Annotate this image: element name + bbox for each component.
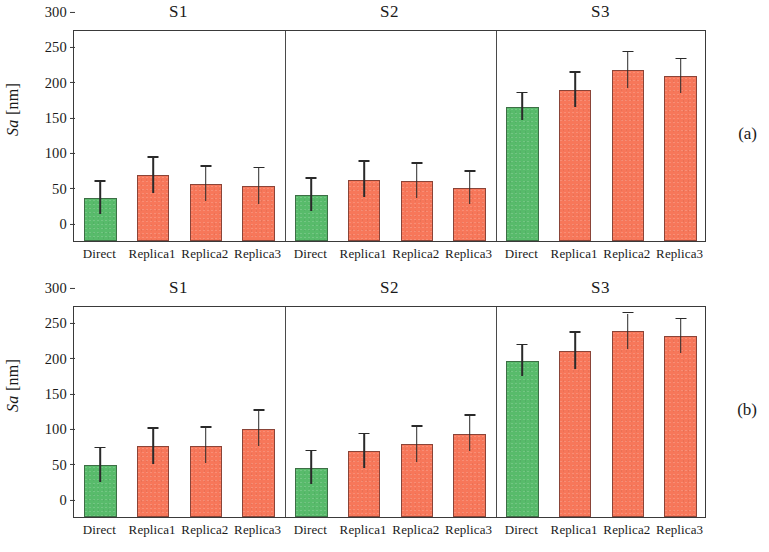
group-title-S2-a: S2 <box>380 2 399 22</box>
error-bar-S2-Replica2-a <box>416 164 418 198</box>
x-axis-tick-S1-Replica1-b: Replica1 <box>129 522 176 538</box>
bar-S3-Replica1-b <box>559 351 592 517</box>
error-cap-upper-S2-Replica3-b <box>464 414 475 416</box>
group-separator-2-b <box>496 307 497 517</box>
y-axis-tick-150-a: 150 <box>45 110 74 127</box>
error-cap-upper-S3-Replica3-b <box>675 318 686 320</box>
y-axis-label-unit-b: [nm] <box>4 359 21 396</box>
plot-area-b: 050100150200250300 <box>73 306 706 518</box>
bar-S3-Direct-b <box>506 361 539 517</box>
group-title-S1-b: S1 <box>169 278 188 298</box>
group-separator-1-b <box>285 307 286 517</box>
error-cap-upper-S2-Replica1-b <box>359 433 370 435</box>
error-bar-S1-Replica1-a <box>152 158 154 193</box>
bar-S3-Direct-a <box>506 107 539 241</box>
error-cap-upper-S2-Replica2-a <box>411 162 422 164</box>
y-axis-tick-100-a: 100 <box>45 145 74 162</box>
bar-S3-Replica2-a <box>612 70 645 241</box>
error-bar-S3-Replica1-a <box>574 73 576 107</box>
error-cap-upper-S1-Replica3-a <box>253 167 264 169</box>
x-axis-tick-S2-Direct-b: Direct <box>294 522 327 538</box>
group-title-S3-b: S3 <box>591 278 610 298</box>
error-bar-S3-Replica3-a <box>680 59 682 93</box>
error-bar-S3-Direct-a <box>522 93 524 120</box>
y-axis-tick-50-a: 50 <box>52 180 74 197</box>
error-cap-upper-S2-Direct-b <box>306 450 317 452</box>
error-bar-S2-Direct-b <box>311 451 313 484</box>
error-cap-upper-S3-Direct-a <box>517 92 528 94</box>
x-axis-tick-S2-Replica2-a: Replica2 <box>392 246 439 262</box>
x-axis-tick-S3-Replica2-a: Replica2 <box>603 246 650 262</box>
x-axis-tick-S3-Replica2-b: Replica2 <box>603 522 650 538</box>
error-bar-S3-Replica2-a <box>627 52 629 87</box>
error-bar-S1-Replica1-b <box>152 429 154 464</box>
bar-S3-Replica2-b <box>612 331 645 517</box>
error-bar-S2-Replica3-a <box>469 172 471 205</box>
error-cap-upper-S3-Replica3-a <box>675 58 686 60</box>
y-axis-tick-200-a: 200 <box>45 74 74 91</box>
error-bar-S3-Direct-b <box>522 345 524 376</box>
y-axis-tick-250-a: 250 <box>45 39 74 56</box>
bar-S3-Replica3-a <box>664 76 697 241</box>
x-axis-tick-S2-Replica3-a: Replica3 <box>445 246 492 262</box>
error-cap-upper-S1-Replica1-b <box>148 427 159 429</box>
plot-wrapper-b: Sa [nm] 050100150200250300 (b) S1S2S3Dir… <box>0 276 769 552</box>
y-axis-label-unit-a: [nm] <box>4 83 21 120</box>
error-bar-S2-Replica3-b <box>469 416 471 451</box>
plot-area-a: 050100150200250300 <box>73 30 706 242</box>
x-axis-tick-S3-Replica3-a: Replica3 <box>656 246 703 262</box>
chart-panel-a: Sa [nm] 050100150200250300 (a) S1S2S3Dir… <box>0 0 769 276</box>
y-axis-tick-300-a: 300 <box>45 4 74 21</box>
y-axis-label-a: Sa [nm] <box>4 83 22 136</box>
y-axis-tick-300-b: 300 <box>45 280 74 297</box>
x-axis-tick-S1-Direct-a: Direct <box>83 246 116 262</box>
y-axis-tick-250-b: 250 <box>45 315 74 332</box>
x-axis-tick-S1-Replica3-a: Replica3 <box>234 246 281 262</box>
x-axis-tick-S2-Replica2-b: Replica2 <box>392 522 439 538</box>
error-bar-S2-Direct-a <box>311 179 313 212</box>
error-cap-upper-S1-Replica2-b <box>200 426 211 428</box>
group-title-S1-a: S1 <box>169 2 188 22</box>
panel-letter-b: (b) <box>737 400 757 420</box>
error-cap-upper-S2-Replica1-a <box>359 160 370 162</box>
error-bar-S3-Replica1-b <box>574 333 576 370</box>
x-axis-tick-S3-Direct-b: Direct <box>505 522 538 538</box>
y-axis-tick-150-b: 150 <box>45 386 74 403</box>
error-bar-S1-Replica3-a <box>258 168 260 203</box>
y-axis-tick-200-b: 200 <box>45 350 74 367</box>
x-axis-tick-S2-Replica1-a: Replica1 <box>340 246 387 262</box>
bar-S3-Replica3-b <box>664 336 697 517</box>
y-axis-tick-100-b: 100 <box>45 421 74 438</box>
error-cap-upper-S3-Replica2-b <box>622 312 633 314</box>
error-bar-S1-Replica3-b <box>258 411 260 446</box>
bar-S3-Replica1-a <box>559 90 592 241</box>
y-axis-tick-0-a: 0 <box>60 216 74 233</box>
error-bar-S3-Replica2-b <box>627 314 629 349</box>
x-axis-tick-S1-Replica3-b: Replica3 <box>234 522 281 538</box>
error-cap-upper-S1-Direct-b <box>95 447 106 449</box>
panel-letter-a: (a) <box>738 124 757 144</box>
error-cap-upper-S3-Direct-b <box>517 344 528 346</box>
y-axis-tick-50-b: 50 <box>52 456 74 473</box>
error-bar-S2-Replica2-b <box>416 427 418 462</box>
error-bar-S1-Replica2-a <box>205 167 207 201</box>
group-title-S2-b: S2 <box>380 278 399 298</box>
x-axis-tick-S2-Replica1-b: Replica1 <box>340 522 387 538</box>
error-bar-S1-Direct-b <box>100 448 102 482</box>
error-cap-upper-S3-Replica1-a <box>570 71 581 73</box>
error-cap-upper-S2-Replica2-b <box>411 425 422 427</box>
error-cap-upper-S3-Replica2-a <box>622 51 633 53</box>
y-axis-label-symbol-b: Sa <box>4 395 21 412</box>
x-axis-tick-S2-Replica3-b: Replica3 <box>445 522 492 538</box>
error-cap-upper-S1-Replica2-a <box>200 165 211 167</box>
x-axis-tick-S1-Replica2-b: Replica2 <box>181 522 228 538</box>
figure-roughness-bar-charts: Sa [nm] 050100150200250300 (a) S1S2S3Dir… <box>0 0 769 552</box>
x-axis-tick-S1-Direct-b: Direct <box>83 522 116 538</box>
y-axis-label-symbol-a: Sa <box>4 119 21 136</box>
plot-wrapper-a: Sa [nm] 050100150200250300 (a) S1S2S3Dir… <box>0 0 769 276</box>
group-separator-1-a <box>285 31 286 241</box>
error-cap-upper-S2-Direct-a <box>306 177 317 179</box>
error-bar-S2-Replica1-b <box>363 434 365 468</box>
x-axis-tick-S1-Replica1-a: Replica1 <box>129 246 176 262</box>
error-cap-upper-S1-Replica1-a <box>148 156 159 158</box>
